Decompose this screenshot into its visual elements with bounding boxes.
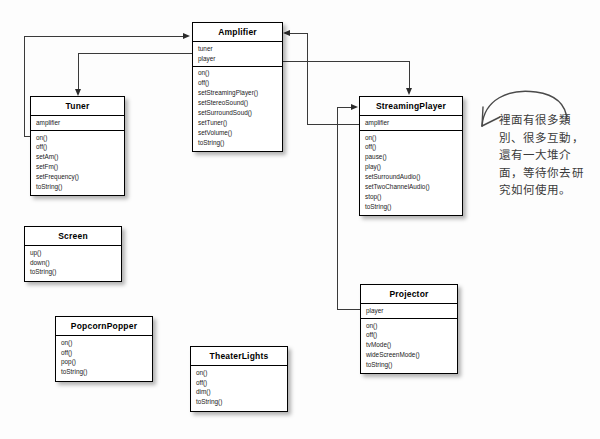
connector-projector-to-streamingplayer-segment-vertical <box>337 107 338 309</box>
class-operation: off() <box>191 378 287 388</box>
class-operations-screen: up() down() toString() <box>25 246 121 281</box>
class-operation: play() <box>360 163 462 173</box>
connector-amplifier-to-streamingplayer-segment-vertical <box>409 61 410 89</box>
class-operations-streamingplayer: on() off() pause() play() setSurroundAud… <box>360 131 462 215</box>
class-operation: on() <box>360 133 462 143</box>
class-operation: setStreamingPlayer() <box>193 89 282 99</box>
connector-projector-to-streamingplayer-segment-top <box>337 107 351 108</box>
annotation-line: 別、很多互動， <box>499 130 584 148</box>
class-title-streamingplayer: StreamingPlayer <box>360 97 462 116</box>
class-operation: setAm() <box>31 153 124 163</box>
class-operation: toString() <box>193 138 282 148</box>
class-operation: toString() <box>191 398 287 408</box>
class-operation: on() <box>361 321 457 331</box>
class-operation: pause() <box>360 153 462 163</box>
connector-amplifier-to-streamingplayer-segment-top <box>282 61 410 62</box>
connector-tuner-to-amplifier-segment-vertical <box>24 36 25 136</box>
class-title-theaterlights: TheaterLights <box>191 347 287 366</box>
arrow-amplifier-to-tuner <box>75 89 81 96</box>
connector-tuner-to-amplifier-segment-top <box>24 36 183 37</box>
class-operation: wideScreenMode() <box>361 351 457 361</box>
class-attribute: amplifier <box>360 118 462 128</box>
class-attributes-projector: player <box>361 304 457 319</box>
class-operation: off() <box>361 331 457 341</box>
class-operation: stop() <box>360 192 462 202</box>
class-operation: setSurroundAudio() <box>360 173 462 183</box>
class-operation: toString() <box>25 268 121 278</box>
connector-streamingplayer-to-amplifier-segment-vertical <box>307 33 308 124</box>
uml-diagram-canvas: Amplifier tuner player on() off() setStr… <box>0 0 600 439</box>
handwritten-annotation: 裡面有很多類 別、很多互動， 還有一大堆介 面，等待你去研 究如何使用。 <box>499 112 584 200</box>
class-operations-popcornpopper: on() off() pop() toString() <box>56 336 152 381</box>
connector-projector-to-streamingplayer-segment-bottom <box>337 309 361 310</box>
class-attribute: tuner <box>193 44 282 54</box>
class-operation: setFrequency() <box>31 173 124 183</box>
class-title-screen: Screen <box>25 227 121 246</box>
class-operation: up() <box>25 248 121 258</box>
class-operation: setTwoChannelAudio() <box>360 182 462 192</box>
class-box-tuner[interactable]: Tuner amplifier on() off() setAm() setFm… <box>30 96 125 196</box>
arrow-tuner-to-amplifier <box>183 33 190 39</box>
arrow-streamingplayer-to-amplifier <box>283 30 290 36</box>
class-operations-amplifier: on() off() setStreamingPlayer() setStere… <box>193 67 282 151</box>
class-operation: setFm() <box>31 163 124 173</box>
class-operation: off() <box>56 348 152 358</box>
annotation-line: 究如何使用。 <box>499 182 584 200</box>
class-operations-theaterlights: on() off() dim() toString() <box>191 366 287 411</box>
class-attributes-tuner: amplifier <box>31 116 124 131</box>
arrow-amplifier-to-streamingplayer <box>406 88 412 95</box>
class-attribute: player <box>193 54 282 64</box>
class-box-projector[interactable]: Projector player on() off() tvMode() wid… <box>360 284 458 374</box>
class-operation: toString() <box>360 202 462 212</box>
class-box-streamingplayer[interactable]: StreamingPlayer amplifier on() off() pau… <box>359 96 463 216</box>
class-box-theaterlights[interactable]: TheaterLights on() off() dim() toString(… <box>190 346 288 412</box>
class-title-projector: Projector <box>361 285 457 304</box>
arrow-projector-to-streamingplayer <box>351 104 358 110</box>
connector-streamingplayer-to-amplifier-segment-top <box>290 33 307 34</box>
class-attributes-amplifier: tuner player <box>193 42 282 67</box>
class-operations-tuner: on() off() setAm() setFm() setFrequency(… <box>31 131 124 195</box>
class-operation: dim() <box>191 388 287 398</box>
class-operation: on() <box>56 338 152 348</box>
class-box-screen[interactable]: Screen up() down() toString() <box>24 226 122 282</box>
class-operation: setVolume() <box>193 128 282 138</box>
class-attributes-streamingplayer: amplifier <box>360 116 462 131</box>
class-attribute: amplifier <box>31 118 124 128</box>
class-operation: setSurroundSoud() <box>193 108 282 118</box>
class-operation: toString() <box>31 182 124 192</box>
class-attribute: player <box>361 306 457 316</box>
class-operation: tvMode() <box>361 341 457 351</box>
annotation-line: 裡面有很多類 <box>499 112 584 130</box>
class-operation: on() <box>31 133 124 143</box>
class-operation: down() <box>25 258 121 268</box>
class-box-popcornpopper[interactable]: PopcornPopper on() off() pop() toString(… <box>55 316 153 382</box>
connector-amplifier-to-tuner-segment-vertical <box>78 53 79 90</box>
class-operation: pop() <box>56 358 152 368</box>
annotation-line: 還有一大堆介 <box>499 147 584 165</box>
connector-streamingplayer-to-amplifier-segment-bottom <box>307 124 360 125</box>
class-title-amplifier: Amplifier <box>193 23 282 42</box>
class-operation: on() <box>193 69 282 79</box>
annotation-line: 面，等待你去研 <box>499 165 584 183</box>
class-operation: setStereoSound() <box>193 99 282 109</box>
class-operation: toString() <box>361 361 457 371</box>
class-operation: off() <box>360 143 462 153</box>
class-operations-projector: on() off() tvMode() wideScreenMode() toS… <box>361 319 457 374</box>
class-title-tuner: Tuner <box>31 97 124 116</box>
class-operation: toString() <box>56 368 152 378</box>
connector-amplifier-to-tuner-segment-top <box>78 53 193 54</box>
class-operation: setTuner() <box>193 118 282 128</box>
class-box-amplifier[interactable]: Amplifier tuner player on() off() setStr… <box>192 22 283 152</box>
class-operation: on() <box>191 368 287 378</box>
class-operation: off() <box>31 143 124 153</box>
class-title-popcornpopper: PopcornPopper <box>56 317 152 336</box>
class-operation: off() <box>193 79 282 89</box>
